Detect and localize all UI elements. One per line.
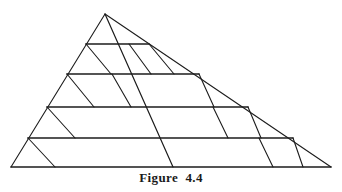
triangle-subdivision-diagram [0,0,342,192]
oblique-mid-4 [248,107,261,138]
figure-page: Figure 4.4 [0,0,342,192]
left-edge [11,14,105,167]
triangle-outline [11,14,331,167]
oblique-right-3 [259,138,273,167]
oblique-mid-group [129,44,303,167]
figure-caption: Figure 4.4 [0,170,342,186]
oblique-mid-2 [149,44,174,74]
oblique-mid-5 [293,138,303,167]
oblique-left-2 [67,74,94,107]
oblique-mid-3 [199,74,214,107]
oblique-left-1 [86,44,111,74]
oblique-mid-1 [129,44,151,74]
oblique-left-group [28,44,111,167]
oblique-left-4 [28,138,55,167]
oblique-left-3 [47,107,75,138]
oblique-right-2 [213,107,228,138]
oblique-right-group [112,74,273,167]
oblique-right-1 [112,74,131,107]
